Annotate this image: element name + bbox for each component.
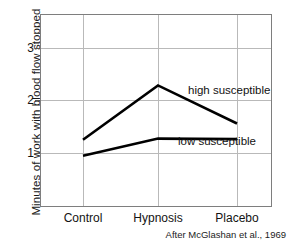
plot-area	[40, 14, 272, 207]
y-axis-tick-labels: 3 2 1	[0, 0, 34, 246]
source-citation: After McGlashan et al., 1969	[0, 229, 286, 240]
x-tick-label-placebo: Placebo	[215, 211, 258, 225]
x-tick-label-control: Control	[64, 211, 103, 225]
series-annotation-high-susceptible: high susceptible	[188, 84, 270, 97]
series-layer	[41, 15, 273, 208]
series-annotation-low-susceptible: low susceptible	[178, 135, 256, 148]
x-tick-label-hypnosis: Hypnosis	[133, 211, 182, 225]
chart-figure: Minutes of work with blood flow stopped …	[0, 0, 293, 246]
y-tick-label-2: 2	[8, 94, 34, 106]
y-tick-label-1: 1	[8, 147, 34, 159]
y-tick-label-3: 3	[8, 42, 34, 54]
